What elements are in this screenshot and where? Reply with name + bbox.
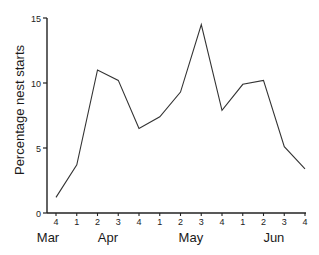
- x-tick-label: 1: [240, 217, 245, 227]
- x-axis: 4123412341234: [47, 213, 308, 227]
- x-tick-label: 3: [116, 217, 121, 227]
- y-tick-label: 10: [31, 79, 41, 89]
- month-label: Jun: [263, 230, 284, 245]
- x-tick-label: 2: [261, 217, 266, 227]
- x-tick-label: 4: [219, 217, 224, 227]
- y-axis-label: Percentage nest starts: [12, 45, 27, 175]
- line-chart: 051015 4123412341234: [0, 0, 319, 255]
- y-tick-label: 15: [31, 14, 41, 24]
- y-tick-label: 5: [36, 144, 41, 154]
- x-tick-label: 2: [95, 217, 100, 227]
- y-axis: 051015: [31, 14, 47, 219]
- x-tick-label: 3: [199, 217, 204, 227]
- y-tick-label: 0: [36, 209, 41, 219]
- x-tick-label: 4: [302, 217, 307, 227]
- x-tick-label: 4: [53, 217, 58, 227]
- x-tick-label: 3: [282, 217, 287, 227]
- month-label: Apr: [98, 230, 118, 245]
- series-line: [56, 25, 305, 198]
- x-tick-label: 2: [178, 217, 183, 227]
- month-label: Mar: [37, 230, 59, 245]
- month-label: May: [179, 230, 204, 245]
- x-tick-label: 1: [74, 217, 79, 227]
- x-tick-label: 4: [136, 217, 141, 227]
- x-tick-label: 1: [157, 217, 162, 227]
